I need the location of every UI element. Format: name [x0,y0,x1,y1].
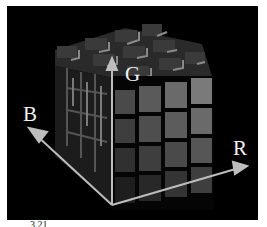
cube-left-face [55,66,113,206]
figure-caption-fragment: 3.21 [30,220,48,227]
rgb-cube-illustration [7,6,258,220]
r-axis-label: R [233,138,247,159]
r-axis-arrow-icon [233,162,247,174]
g-axis-label: G [125,64,140,85]
figure-frame: G B R [7,6,258,220]
b-axis-arrow-icon [29,128,47,142]
b-axis-label: B [23,104,37,125]
